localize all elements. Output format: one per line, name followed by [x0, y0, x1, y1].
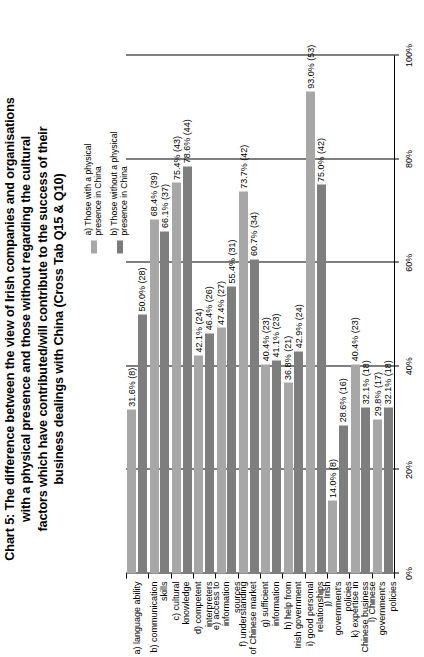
legend-label-a-line-1: a) Those with a physical: [83, 143, 93, 235]
bar-value-label: 68.4% (39): [149, 172, 159, 216]
bar-value-label: 73.7% (42): [239, 144, 249, 188]
bar-with-presence: [217, 327, 226, 573]
category-tick: [327, 573, 328, 578]
category-tick: [215, 573, 216, 578]
category-label: a) language ability: [132, 581, 143, 654]
bar-with-presence: [127, 409, 136, 573]
category-tick: [193, 573, 194, 578]
category-axis-line: [394, 55, 395, 573]
category-tick: [171, 573, 172, 578]
bar-with-presence: [328, 500, 337, 573]
bar-with-presence: [239, 191, 248, 573]
bar-value-label: 14.0% (8): [328, 458, 338, 497]
bar-with-presence: [351, 364, 360, 573]
legend-label-b-line-1: b) Those without a physical: [109, 131, 119, 235]
axis-tick-label: 80%: [404, 150, 414, 168]
category-tick: [372, 573, 373, 578]
bar-without-presence: [339, 425, 348, 573]
chart-title-line-2: with a physical presence and those witho…: [18, 0, 34, 657]
axis-tick-label: 60%: [404, 253, 414, 271]
bar-with-presence: [172, 182, 181, 573]
axis-tick-label: 40%: [404, 357, 414, 375]
bar-value-label: 40.4% (23): [261, 317, 271, 361]
plot-inner: 0%20%40%60%80%100%31.6% (8)50.0% (28)68.…: [126, 55, 394, 573]
rotated-chart-canvas: Chart 5: The difference between the view…: [0, 0, 424, 657]
bar-with-presence: [194, 355, 203, 573]
bar-value-label: 32.1% (18): [361, 360, 371, 404]
bar-with-presence: [306, 91, 315, 573]
bar-value-label: 66.1% (37): [160, 184, 170, 228]
legend-item-with-presence: a) Those with a physical presence in Chi…: [84, 131, 104, 253]
chart-legend: a) Those with a physical presence in Chi…: [84, 131, 130, 253]
chart-title-line-3: factors which have contributed/will cont…: [35, 0, 51, 657]
category-tick: [126, 573, 127, 578]
bar-with-presence: [150, 219, 159, 573]
bar-without-presence: [384, 407, 393, 573]
axis-tick: [394, 365, 399, 366]
axis-tick: [394, 468, 399, 469]
category-label: f) understanding of Chinese market: [238, 581, 259, 654]
bar-value-label: 47.4% (27): [216, 280, 226, 324]
bar-without-presence: [160, 231, 169, 573]
bar-without-presence: [227, 286, 236, 573]
category-label: g) sufficient information: [261, 581, 282, 627]
category-tick: [305, 573, 306, 578]
plot-area: 0%20%40%60%80%100%31.6% (8)50.0% (28)68.…: [126, 55, 394, 573]
bar-value-label: 60.7% (34): [249, 212, 259, 256]
bar-value-label: 41.1% (23): [271, 313, 281, 357]
category-label: c) cultural knowledge: [171, 581, 192, 657]
bar-with-presence: [284, 382, 293, 573]
bar-without-presence: [317, 185, 326, 574]
bar-without-presence: [205, 333, 214, 573]
bar-value-label: 36.8% (21): [283, 335, 293, 379]
bar-without-presence: [183, 166, 192, 573]
bar-value-label: 42.9% (24): [294, 304, 304, 348]
category-tick: [238, 573, 239, 578]
category-tick: [349, 573, 350, 578]
bar-value-label: 75.0% (42): [316, 137, 326, 181]
axis-tick: [394, 158, 399, 159]
legend-swatch-icon-b: [117, 240, 123, 253]
bar-value-label: 50.0% (28): [137, 267, 147, 311]
bar-value-label: 40.4% (23): [350, 317, 360, 361]
bar-without-presence: [250, 259, 259, 573]
bar-without-presence: [272, 360, 281, 573]
bar-with-presence: [261, 364, 270, 573]
bar-value-label: 78.6% (44): [182, 119, 192, 163]
category-tick: [394, 573, 395, 578]
legend-label-a: a) Those with a physical presence in Chi…: [84, 143, 104, 235]
chart-figure: Chart 5: The difference between the view…: [0, 0, 424, 657]
category-tick: [148, 573, 149, 578]
gridline-80pct: [126, 158, 394, 159]
axis-tick-label: 20%: [404, 460, 414, 478]
category-label: l) Chinese government's policies: [367, 581, 399, 657]
bar-value-label: 46.4% (26): [204, 286, 214, 330]
category-tick: [282, 573, 283, 578]
axis-tick: [394, 54, 399, 55]
category-axis-labels: a) language abilityb) communication skil…: [126, 575, 394, 657]
bar-value-label: 29.8% (17): [373, 372, 383, 416]
bar-value-label: 31.6% (8): [127, 367, 137, 406]
legend-label-a-line-2: presence in China: [93, 166, 103, 235]
chart-title-line-1: Chart 5: The difference between the view…: [2, 0, 18, 657]
bar-value-label: 93.0% (53): [306, 44, 316, 88]
bar-value-label: 28.6% (16): [338, 378, 348, 422]
bar-value-label: 55.4% (31): [227, 239, 237, 283]
category-label: h) help from Irish government: [283, 581, 304, 648]
legend-swatch-icon-a: [91, 240, 97, 253]
bar-without-presence: [138, 314, 147, 573]
bar-with-presence: [373, 419, 382, 573]
axis-tick: [394, 261, 399, 262]
category-label: b) communication skills: [149, 581, 170, 657]
bar-value-label: 75.4% (43): [172, 135, 182, 179]
bar-value-label: 32.1% (18): [383, 360, 393, 404]
axis-tick-label: 0%: [404, 566, 414, 579]
gridline-100pct: [126, 54, 394, 55]
bar-without-presence: [361, 407, 370, 573]
bar-without-presence: [294, 351, 303, 573]
bar-value-label: 42.1% (24): [194, 308, 204, 352]
axis-tick-label: 100%: [404, 43, 414, 66]
category-tick: [260, 573, 261, 578]
chart-title: Chart 5: The difference between the view…: [2, 0, 67, 657]
chart-title-line-4: business dealings with China (Cross Tab …: [51, 0, 67, 657]
